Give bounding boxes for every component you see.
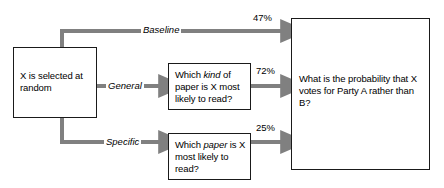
edge-label-baseline: Baseline	[141, 24, 181, 35]
node-source-label: X is selected at random	[20, 70, 92, 94]
node-general-question: Which kind of paper is X most likely to …	[168, 63, 251, 110]
general-q-emphasis: kind	[203, 69, 220, 80]
node-specific-question-label: Which paper is X most likely to read?	[175, 139, 246, 176]
edge-value-baseline: 47%	[253, 12, 272, 23]
specific-q-part-1: Which	[175, 139, 203, 150]
node-specific-question: Which paper is X most likely to read?	[168, 133, 251, 180]
edge-label-general: General	[106, 80, 144, 91]
node-outcome: What is the probability that X votes for…	[291, 18, 430, 170]
node-general-question-label: Which kind of paper is X most likely to …	[175, 69, 246, 106]
edge-value-general: 72%	[256, 65, 275, 76]
node-outcome-label: What is the probability that X votes for…	[299, 73, 423, 110]
flowchart-diagram: X is selected at random Which kind of pa…	[0, 0, 444, 188]
edge-label-specific: Specific	[104, 136, 141, 147]
general-q-part-1: Which	[175, 69, 203, 80]
node-source: X is selected at random	[13, 47, 97, 118]
specific-q-emphasis: paper	[203, 139, 227, 150]
edge-value-specific: 25%	[256, 122, 275, 133]
